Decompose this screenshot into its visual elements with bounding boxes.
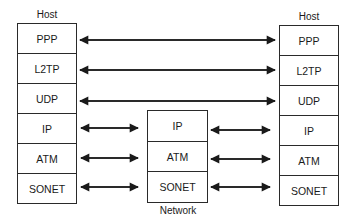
connection-arrows xyxy=(0,0,353,224)
